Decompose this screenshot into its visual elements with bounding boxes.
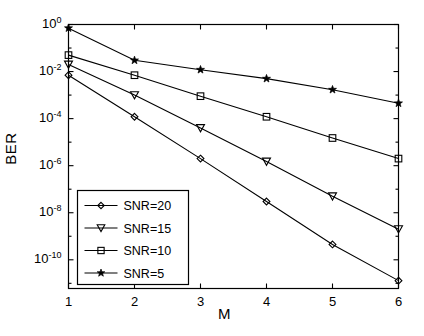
series-line <box>69 28 399 103</box>
plot-canvas: SNR=20SNR=15SNR=10SNR=5 <box>0 0 424 336</box>
legend-label: SNR=10 <box>124 244 172 258</box>
star-marker <box>197 66 205 74</box>
ber-vs-m-chart: BER M 10010-210-410-610-810-10 123456 SN… <box>0 0 424 336</box>
legend-label: SNR=15 <box>124 222 172 236</box>
data-series <box>65 52 402 162</box>
legend-label: SNR=20 <box>124 199 172 213</box>
star-marker <box>131 56 139 64</box>
star-marker <box>263 74 271 82</box>
chart-legend: SNR=20SNR=15SNR=10SNR=5 <box>78 191 189 285</box>
legend-label: SNR=5 <box>124 267 165 281</box>
data-series <box>65 24 403 107</box>
star-marker <box>329 85 337 93</box>
